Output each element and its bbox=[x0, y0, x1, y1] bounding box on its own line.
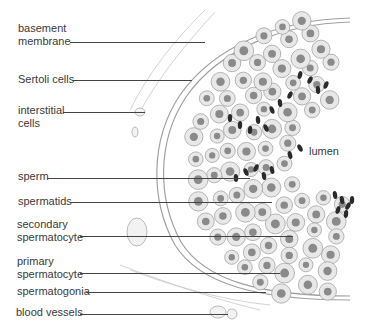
label-basement-membrane: basementmembrane bbox=[18, 22, 71, 48]
leader-line-sertoli-cells bbox=[72, 80, 192, 81]
label-sertoli-cells: Sertoli cells bbox=[18, 73, 74, 86]
label-blood-vessels: blood vessels bbox=[16, 306, 83, 319]
label-spermatids: spermatids bbox=[18, 195, 72, 208]
label-interstitial-cells: interstitialcells bbox=[18, 104, 64, 130]
label-primary-spermatocyte: primaryspermatocyte bbox=[17, 255, 83, 281]
leader-line-spermatogonia bbox=[86, 292, 266, 293]
leader-line-primary-spermatocyte bbox=[80, 273, 280, 274]
leader-line-interstitial-cells bbox=[63, 112, 145, 113]
label-sperm: sperm bbox=[18, 170, 49, 183]
leader-line-blood-vessels bbox=[80, 314, 228, 315]
tubule-illustration bbox=[0, 0, 366, 334]
leader-line-basement-membrane bbox=[70, 42, 205, 43]
label-secondary-spermatocyte: secondaryspermatocyte bbox=[17, 218, 83, 244]
label-spermatogonia: spermatogonia bbox=[17, 285, 90, 298]
leader-line-sperm bbox=[47, 178, 250, 179]
tubule-figure: lumen basementmembraneSertoli cellsinter… bbox=[0, 0, 366, 334]
lumen-label: lumen bbox=[309, 145, 339, 158]
leader-line-secondary-spermatocyte bbox=[80, 236, 293, 237]
leader-line-spermatids bbox=[70, 202, 272, 203]
